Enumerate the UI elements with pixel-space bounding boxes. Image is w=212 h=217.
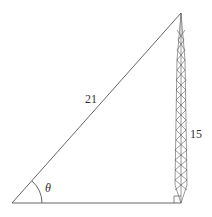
tower-height-label: 15 xyxy=(190,127,202,142)
angle-label: θ xyxy=(45,181,51,196)
tower-icon xyxy=(175,13,187,203)
angle-arc xyxy=(32,181,42,203)
hypotenuse-label: 21 xyxy=(85,92,97,107)
triangle-figure xyxy=(0,0,212,217)
hypotenuse-line xyxy=(12,13,181,203)
diagram-canvas: 21 15 θ xyxy=(0,0,212,217)
